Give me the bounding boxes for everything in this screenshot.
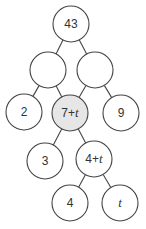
edge-root-right [79, 40, 86, 54]
edge-n7t-n3 [53, 129, 61, 145]
node-label: 2 [21, 105, 28, 119]
node-circle [77, 52, 113, 88]
node-number: 4+ [85, 152, 99, 166]
node-variable: t [99, 151, 103, 166]
node-label: t [118, 195, 122, 210]
tree-node-n4: 4 [52, 185, 88, 221]
edge-left-n7t [56, 86, 62, 97]
edge-n4t-nt [103, 174, 111, 187]
node-label: 4 [67, 196, 74, 210]
tree-node-n4t: 4+t [76, 141, 112, 177]
edge-n7t-n4t [78, 129, 85, 143]
node-number: 7+ [61, 106, 75, 120]
tree-node-n3: 3 [27, 143, 63, 179]
tree-node-left [30, 52, 66, 88]
node-circle [30, 52, 66, 88]
tree-nodes: 4327+t934+t4t [6, 6, 139, 221]
node-label: 7+t [61, 105, 79, 120]
node-number: 3 [42, 154, 49, 168]
node-label: 4+t [85, 151, 103, 166]
node-variable: t [75, 105, 79, 120]
edge-left-n2 [33, 86, 39, 97]
tree-node-n9: 9 [103, 95, 139, 131]
edge-n4t-n4 [79, 175, 86, 187]
tree-node-right [77, 52, 113, 88]
tree-node-nt: t [102, 185, 138, 221]
node-variable: t [118, 195, 122, 210]
node-number: 2 [21, 105, 28, 119]
edge-right-n7t [79, 86, 86, 98]
node-number: 9 [118, 106, 125, 120]
node-number: 43 [64, 17, 78, 31]
node-label: 9 [118, 106, 125, 120]
node-label: 3 [42, 154, 49, 168]
edge-root-left [56, 40, 63, 54]
tree-node-n2: 2 [6, 94, 42, 130]
number-tree-diagram: 4327+t934+t4t [0, 0, 146, 229]
node-label: 43 [64, 17, 78, 31]
tree-node-n7t: 7+t [52, 95, 88, 131]
edge-right-n9 [104, 85, 111, 97]
tree-node-root: 43 [53, 6, 89, 42]
node-number: 4 [67, 196, 74, 210]
